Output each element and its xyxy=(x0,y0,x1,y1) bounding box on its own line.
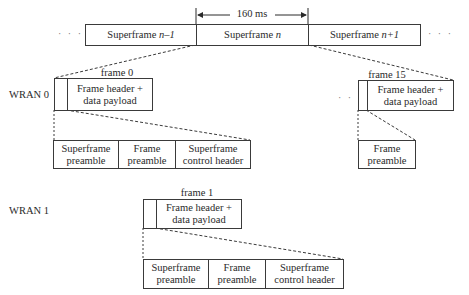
wran1-label: WRAN 1 xyxy=(9,205,49,216)
superframe-preamble-cell: Superframe preamble xyxy=(54,141,118,168)
frame-preamble-cell: Frame preamble xyxy=(359,141,415,168)
frame1-box: Frame header + data payload xyxy=(143,199,242,229)
frame15-expansion: Frame preamble xyxy=(358,140,416,169)
superframe-n-minus-1: Superframe n–1 xyxy=(85,24,197,46)
superframe-preamble-cell: Superframe preamble xyxy=(144,260,208,288)
frame1-preamble-slot xyxy=(144,200,156,228)
superframe-control-header-cell: Superframe control header xyxy=(265,260,343,288)
duration-label: 160 ms xyxy=(228,8,276,20)
superframe-control-header-cell: Superframe control header xyxy=(175,141,250,168)
frame15-box: Frame header + data payload xyxy=(358,80,454,111)
frame0-preamble-slot xyxy=(55,79,67,110)
frame1-title: frame 1 xyxy=(172,187,222,199)
wran0-label: WRAN 0 xyxy=(9,89,49,100)
frame1-expansion: Superframe preamble Frame preamble Super… xyxy=(143,259,344,289)
ellipsis-left: · · · xyxy=(58,28,83,39)
frame-preamble-cell: Frame preamble xyxy=(208,260,265,288)
frame1-header-payload: Frame header + data payload xyxy=(156,200,241,228)
ellipsis-right: · · · xyxy=(428,28,453,39)
superframe-n-plus-1: Superframe n+1 xyxy=(308,24,421,46)
frame15-header-payload: Frame header + data payload xyxy=(367,81,453,110)
frame0-box: Frame header + data payload xyxy=(54,78,153,111)
frame0-header-payload: Frame header + data payload xyxy=(67,79,152,110)
frame-preamble-cell: Frame preamble xyxy=(118,141,175,168)
frame15-preamble-slot xyxy=(359,81,367,110)
superframe-n: Superframe n xyxy=(196,24,309,46)
frame0-expansion: Superframe preamble Frame preamble Super… xyxy=(53,140,251,169)
